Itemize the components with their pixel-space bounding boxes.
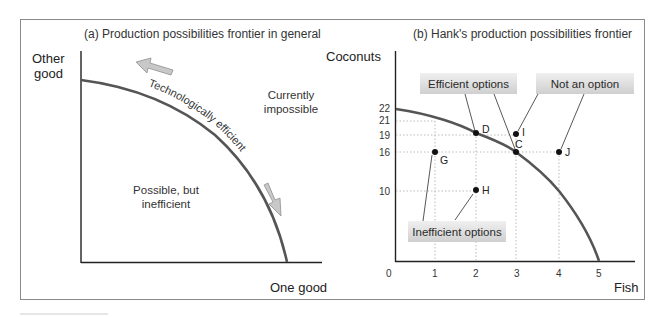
data-points [432, 130, 562, 193]
chart-graphics: Technologically efficient [0, 0, 662, 317]
point-g [432, 149, 438, 155]
tech-efficient-label: Technologically efficient [147, 77, 248, 154]
panel-a-ylabel-line1: Other [32, 51, 65, 66]
x-tick-3: 3 [514, 268, 520, 279]
currently-impossible-line1: Currently [256, 88, 326, 102]
possible-inefficient-label: Possible, but inefficient [126, 183, 206, 211]
point-i [513, 131, 519, 137]
point-h-label: H [482, 184, 490, 196]
panel-a-xlabel: One good [270, 280, 327, 295]
callout-efficient-options: Efficient options [420, 73, 517, 94]
bottom-strip [20, 313, 108, 315]
x-tick-5: 5 [596, 268, 602, 279]
y-tick-10: 10 [379, 186, 390, 197]
possible-inefficient-line2: inefficient [126, 197, 206, 211]
point-g-label: G [440, 154, 448, 166]
x-tick-4: 4 [556, 268, 562, 279]
point-c-label: C [515, 138, 523, 150]
possible-inefficient-line1: Possible, but [126, 183, 206, 197]
y-tick-19: 19 [379, 130, 390, 141]
currently-impossible-label: Currently impossible [256, 88, 326, 116]
point-j [556, 149, 562, 155]
y-tick-16: 16 [379, 147, 390, 158]
point-d [473, 130, 479, 136]
point-h [473, 187, 479, 193]
y-tick-22: 22 [379, 103, 390, 114]
callout-not-an-option: Not an option [536, 73, 634, 94]
x-tick-1: 1 [432, 268, 438, 279]
point-i-label: I [522, 126, 525, 138]
panel-b-xlabel: Fish [614, 280, 639, 295]
panel-a-ylabel-line2: good [34, 66, 63, 81]
point-d-label: D [482, 123, 490, 135]
x-tick-2: 2 [473, 268, 479, 279]
panel-b-ylabel: Coconuts [326, 49, 381, 64]
callout-inefficient-options: Inefficient options [408, 221, 506, 242]
arrow-down-right-icon [264, 183, 281, 216]
panel-a-title: (a) Production possibilities frontier in… [84, 27, 321, 41]
point-j-label: J [565, 146, 570, 158]
y-tick-21: 21 [379, 115, 390, 126]
currently-impossible-line2: impossible [256, 102, 326, 116]
arrow-up-left-icon [136, 58, 173, 75]
x-tick-0: 0 [386, 268, 392, 279]
panel-b-title: (b) Hank's production possibilities fron… [413, 27, 632, 41]
